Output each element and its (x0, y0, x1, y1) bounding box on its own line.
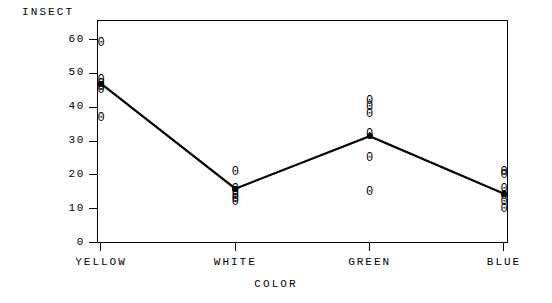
x-axis-tick-label-white: WHITE (214, 256, 257, 268)
x-axis-tick-label-blue: BLUE (487, 256, 521, 268)
y-axis-tick-label: 30 (51, 135, 85, 146)
insect-color-chart: INSECT COLOR 000000000000000000000000 01… (0, 0, 552, 303)
y-axis-tick-label: 20 (51, 169, 85, 180)
y-axis-tick (89, 141, 97, 142)
x-axis-tick (503, 243, 504, 251)
y-axis-tick (89, 208, 97, 209)
x-axis-tick (100, 243, 101, 251)
y-axis-tick-label: 50 (51, 67, 85, 78)
y-axis-tick (89, 174, 97, 175)
x-axis-tick (235, 243, 236, 251)
y-axis-title: INSECT (22, 6, 74, 18)
plot-area (97, 20, 508, 243)
x-axis-tick-label-green: GREEN (348, 256, 391, 268)
y-axis-tick-label: 60 (51, 34, 85, 45)
x-axis-tick-label-yellow: YELLOW (75, 256, 127, 268)
x-axis-tick (369, 243, 370, 251)
y-axis-tick (89, 39, 97, 40)
y-axis-tick-label: 10 (51, 203, 85, 214)
y-axis-tick (89, 73, 97, 74)
x-axis-title: COLOR (254, 278, 298, 290)
y-axis-tick-label: 40 (51, 101, 85, 112)
y-axis-tick (89, 107, 97, 108)
y-axis-tick-label: 0 (51, 237, 85, 248)
y-axis-tick (89, 242, 97, 243)
